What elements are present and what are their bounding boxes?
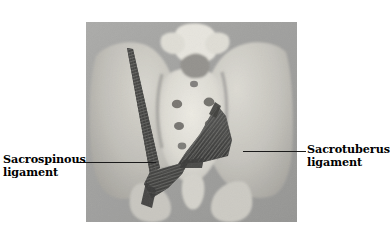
photo-wash <box>86 22 297 222</box>
leader-line-sacrospinous <box>77 162 156 163</box>
label-sacrospinous-line1: Sacrospinous <box>3 152 86 166</box>
leader-line-sacrotuberus <box>243 151 306 152</box>
label-sacrospinous-ligament: Sacrospinous ligament <box>3 153 86 179</box>
label-sacrotuberus-line1: Sacrotuberus <box>307 142 390 156</box>
label-sacrotuberus-line2: ligament <box>307 156 390 169</box>
label-sacrospinous-line2: ligament <box>3 166 86 179</box>
pelvis-photo-svg <box>86 22 297 222</box>
label-sacrotuberus-ligament: Sacrotuberus ligament <box>307 143 390 169</box>
pelvis-photograph <box>86 22 297 222</box>
